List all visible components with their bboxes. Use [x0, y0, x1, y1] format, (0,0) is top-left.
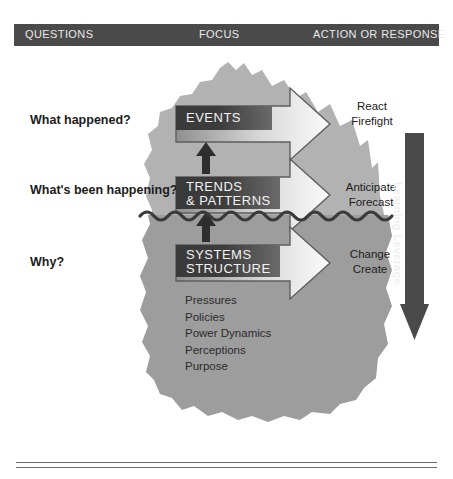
- deep-structure-item: Purpose: [185, 358, 271, 375]
- header-label-questions: QUESTIONS: [25, 28, 93, 40]
- question-events: What happened?: [30, 113, 131, 127]
- iceberg-scene: [0, 0, 453, 479]
- focus-label-trends-line2: & PATTERNS: [176, 194, 280, 208]
- deep-structure-item: Policies: [185, 309, 271, 326]
- deep-structure-list: Pressures Policies Power Dynamics Percep…: [185, 292, 271, 375]
- focus-label-events: EVENTS: [176, 106, 272, 125]
- bottom-divider: [16, 462, 437, 468]
- action-events-line2: Firefight: [336, 114, 408, 129]
- focus-box-systems: SYSTEMS STRUCTURE: [176, 245, 280, 277]
- question-trends: What's been happening?: [30, 183, 177, 197]
- question-systems: Why?: [30, 255, 64, 269]
- learning-leverage-arrow: [400, 133, 429, 340]
- header-bar: QUESTIONS FOCUS ACTION OR RESPONSE: [14, 24, 439, 46]
- deep-structure-item: Perceptions: [185, 342, 271, 359]
- header-label-focus: FOCUS: [199, 28, 240, 40]
- deep-structure-item: Pressures: [185, 292, 271, 309]
- focus-label-systems-line1: SYSTEMS: [176, 245, 280, 262]
- focus-box-events: EVENTS: [176, 106, 272, 130]
- learning-leverage-label: Learning Leverage: [392, 182, 404, 285]
- header-label-action: ACTION OR RESPONSE: [313, 28, 446, 40]
- focus-label-trends-line1: TRENDS: [176, 177, 280, 194]
- action-label-events: React Firefight: [336, 99, 408, 129]
- focus-label-systems-line2: STRUCTURE: [176, 262, 280, 276]
- action-events-line1: React: [336, 99, 408, 114]
- deep-structure-item: Power Dynamics: [185, 325, 271, 342]
- focus-box-trends: TRENDS & PATTERNS: [176, 177, 280, 209]
- iceberg-diagram: QUESTIONS FOCUS ACTION OR RESPONSE What …: [0, 0, 453, 479]
